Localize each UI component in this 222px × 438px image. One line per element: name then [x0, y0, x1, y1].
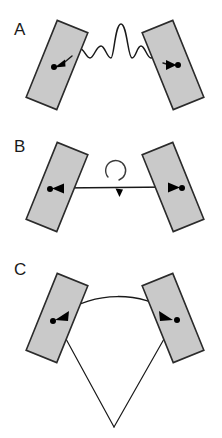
angle-leg-left-c [66, 339, 114, 427]
rotation-arrow-head-b [116, 189, 124, 198]
rotation-arc-b [106, 161, 126, 180]
node-dot-left-a [51, 64, 57, 70]
node-dot-right-a [175, 62, 181, 68]
node-dot-right-b [179, 185, 185, 191]
node-dot-left-b [47, 186, 53, 192]
plate-right-c [142, 273, 204, 362]
panel-b: B [14, 137, 204, 232]
diagram-canvas: A B [0, 0, 222, 438]
angle-leg-right-c [114, 339, 164, 427]
plate-left-a [26, 20, 88, 109]
figure-root: A B [0, 0, 222, 438]
plate-left-c [26, 273, 88, 362]
node-dot-right-c [174, 317, 180, 323]
panel-c: C [14, 260, 204, 427]
panel-label-c: C [14, 260, 26, 279]
panel-label-b: B [14, 137, 25, 156]
node-dot-left-c [50, 318, 56, 324]
panel-a: A [14, 20, 204, 110]
panel-label-a: A [14, 20, 26, 39]
